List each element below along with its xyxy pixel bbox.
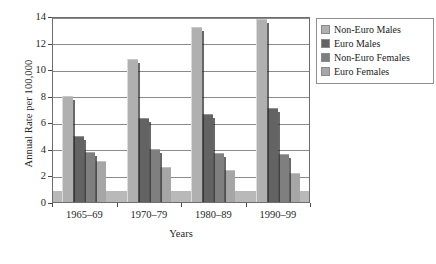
chart-legend: Non-Euro MalesEuro MalesNon-Euro Females… [316,18,434,84]
y-axis-tick-label: 10 [16,64,46,75]
legend-item: Non-Euro Females [321,51,430,64]
x-axis-tick [52,203,53,207]
x-axis-title: Years [52,228,310,239]
bar-group [118,18,183,202]
bar-group [247,18,311,202]
legend-swatch-icon [321,25,330,34]
legend-item-label: Euro Males [334,38,380,49]
legend-swatch-icon [321,67,330,76]
bar [127,59,138,202]
legend-item: Non-Euro Males [321,23,430,36]
legend-item-label: Euro Females [334,66,389,77]
y-axis-tick-label: 4 [16,144,46,155]
legend-item-label: Non-Euro Females [334,52,410,63]
bar [256,19,267,202]
y-axis-tick-label: 0 [16,197,46,208]
bar-group [53,18,118,202]
x-axis-tick [181,203,182,207]
y-axis-tick-label: 14 [16,11,46,22]
x-axis-tick [246,203,247,207]
plot-area [52,17,310,203]
x-axis-tick-label: 1990–99 [238,209,318,220]
legend-swatch-icon [321,39,330,48]
y-axis-tick-label: 2 [16,170,46,181]
x-axis-tick [117,203,118,207]
legend-swatch-icon [321,53,330,62]
y-axis-tick-label: 8 [16,91,46,102]
legend-item: Euro Males [321,37,430,50]
bar [191,27,202,202]
legend-item: Euro Females [321,65,430,78]
legend-item-label: Non-Euro Males [334,24,401,35]
x-axis-tick [310,203,311,207]
bar-group [182,18,247,202]
y-axis-tick-label: 6 [16,117,46,128]
bar [62,96,73,202]
bar-chart-figure: Annual Rate per 100,000 02468101214 1965… [0,0,436,264]
y-axis-tick-label: 12 [16,38,46,49]
